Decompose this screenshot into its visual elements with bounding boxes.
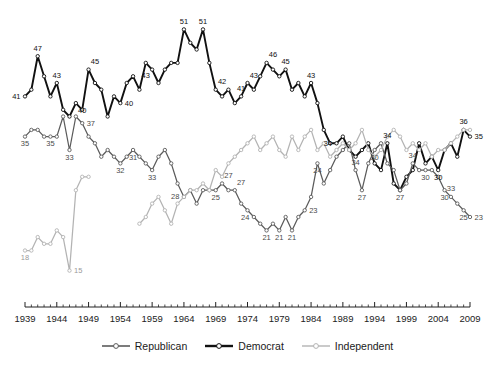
independent-point bbox=[430, 155, 433, 158]
x-axis-tick-label: 1959 bbox=[142, 313, 163, 324]
democrat-point bbox=[208, 61, 211, 64]
independent-point bbox=[195, 189, 198, 192]
chart-legend: RepublicanDemocratIndependent bbox=[0, 340, 494, 352]
legend-label: Republican bbox=[135, 340, 188, 352]
independent-point bbox=[163, 209, 166, 212]
republican-point bbox=[360, 189, 363, 192]
independent-point bbox=[252, 135, 255, 138]
republican-point bbox=[468, 215, 471, 218]
republican-point bbox=[220, 182, 223, 185]
republican-point bbox=[239, 202, 242, 205]
point-value-label: 23 bbox=[309, 206, 317, 215]
legend-item-democrat[interactable]: Democrat bbox=[204, 340, 284, 352]
point-value-label: 21 bbox=[275, 233, 283, 242]
republican-point bbox=[49, 135, 52, 138]
legend-item-independent[interactable]: Independent bbox=[301, 340, 393, 352]
x-axis-tick-label: 1979 bbox=[269, 313, 290, 324]
republican-point bbox=[278, 229, 281, 232]
republican-point bbox=[386, 162, 389, 165]
point-value-label: 15 bbox=[74, 266, 82, 275]
democrat-point bbox=[163, 68, 166, 71]
republican-point bbox=[309, 195, 312, 198]
point-value-label: 23 bbox=[475, 213, 483, 222]
independent-point bbox=[233, 155, 236, 158]
point-value-label: 27 bbox=[358, 193, 366, 202]
point-value-label: 51 bbox=[180, 17, 188, 26]
republican-point bbox=[379, 142, 382, 145]
point-value-label: 18 bbox=[21, 253, 29, 262]
independent-point bbox=[30, 249, 33, 252]
independent-point bbox=[379, 148, 382, 151]
point-value-label: 41 bbox=[12, 92, 20, 101]
republican-point bbox=[392, 168, 395, 171]
democrat-point bbox=[303, 95, 306, 98]
independent-point bbox=[462, 128, 465, 131]
democrat-point bbox=[341, 135, 344, 138]
independent-point bbox=[182, 195, 185, 198]
party-identification-line-chart: 1939194419491954195919641969197419791984… bbox=[0, 0, 494, 373]
independent-point bbox=[189, 189, 192, 192]
point-value-label: 30 bbox=[421, 173, 429, 182]
democrat-point bbox=[373, 162, 376, 165]
point-value-label: 24 bbox=[313, 166, 321, 175]
democrat-point bbox=[271, 68, 274, 71]
independent-point bbox=[437, 148, 440, 151]
democrat-point bbox=[74, 101, 77, 104]
democrat-point bbox=[93, 81, 96, 84]
independent-point bbox=[61, 235, 64, 238]
independent-point bbox=[443, 148, 446, 151]
x-axis-tick-label: 1939 bbox=[14, 313, 35, 324]
republican-point bbox=[411, 162, 414, 165]
point-value-label: 27 bbox=[224, 171, 232, 180]
point-value-label: 28 bbox=[171, 192, 179, 201]
democrat-point bbox=[468, 135, 471, 138]
democrat-point bbox=[201, 28, 204, 31]
democrat-point bbox=[189, 41, 192, 44]
republican-point bbox=[322, 182, 325, 185]
democrat-point bbox=[424, 162, 427, 165]
independent-point bbox=[456, 135, 459, 138]
x-axis-tick-label: 1984 bbox=[300, 313, 321, 324]
independent-point bbox=[405, 148, 408, 151]
republican-point bbox=[131, 148, 134, 151]
independent-point bbox=[411, 142, 414, 145]
republican-point bbox=[341, 148, 344, 151]
x-axis: 1939194419491954195919641969197419791984… bbox=[14, 302, 480, 324]
republican-point bbox=[398, 189, 401, 192]
independent-point bbox=[348, 148, 351, 151]
republican-point bbox=[214, 189, 217, 192]
democrat-point bbox=[284, 68, 287, 71]
democrat-point bbox=[36, 55, 39, 58]
independent-point bbox=[87, 175, 90, 178]
independent-point bbox=[49, 242, 52, 245]
x-axis-tick-label: 1954 bbox=[110, 313, 131, 324]
republican-point bbox=[23, 135, 26, 138]
independent-point bbox=[367, 148, 370, 151]
independent-point bbox=[157, 195, 160, 198]
independent-point bbox=[335, 148, 338, 151]
republican-point bbox=[462, 209, 465, 212]
democrat-point bbox=[68, 115, 71, 118]
independent-point bbox=[468, 128, 471, 131]
point-value-label: 34 bbox=[324, 139, 332, 148]
point-value-label: 42 bbox=[218, 77, 226, 86]
democrat-point bbox=[220, 95, 223, 98]
republican-point bbox=[81, 122, 84, 125]
democrat-point bbox=[456, 155, 459, 158]
democrat-point bbox=[112, 95, 115, 98]
legend-item-republican[interactable]: Republican bbox=[101, 340, 188, 352]
x-axis-tick-label: 1974 bbox=[237, 313, 258, 324]
independent-point bbox=[176, 202, 179, 205]
democrat-point bbox=[49, 95, 52, 98]
point-value-label: 34 bbox=[383, 131, 391, 140]
republican-point bbox=[354, 168, 357, 171]
point-value-label: 32 bbox=[116, 166, 124, 175]
legend-label: Independent bbox=[335, 340, 393, 352]
democrat-point bbox=[100, 88, 103, 91]
democrat-point bbox=[214, 88, 217, 91]
republican-point bbox=[55, 135, 58, 138]
democrat-point bbox=[278, 75, 281, 78]
point-value-label: 47 bbox=[34, 44, 42, 53]
x-axis-tick-label: 2009 bbox=[459, 313, 480, 324]
democrat-point bbox=[119, 101, 122, 104]
